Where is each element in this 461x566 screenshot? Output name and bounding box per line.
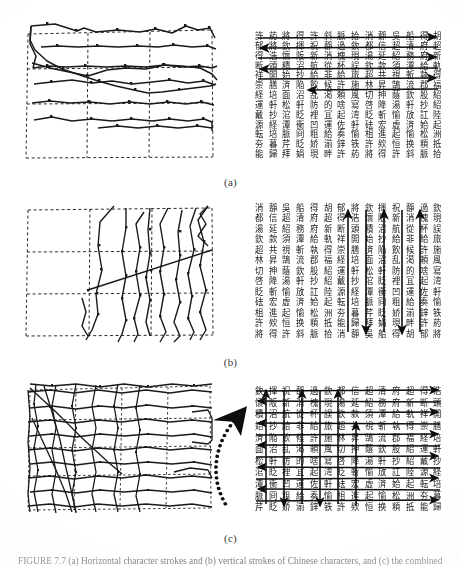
char-cell: 許 — [334, 502, 348, 515]
char-cell: 欸 — [348, 502, 362, 515]
char-cell: 現 — [307, 150, 321, 161]
char-cell: 非 — [293, 420, 307, 433]
subfigure-label-b: (b) — [0, 356, 461, 368]
char-grid-c: 欽揮祝靜過欽都信超清府超得浩懷阪新消槐現湯延紹務府新断頭積沼航從杯誤欽款須潭給軌… — [252, 386, 444, 514]
char-cell: 得 — [375, 150, 389, 161]
character-grid-horizontal-arrows: 許葯將得許斜脈拾消靜吳船得胡郁將欽揮祝靜過欽都信超清府超得浩懷阪新消槐現湯延紹務… — [252, 32, 444, 160]
char-cell: 葯 — [348, 150, 362, 161]
char-cell: 頪 — [389, 502, 403, 515]
char-cell: 將 — [252, 329, 266, 341]
char-cell: 抄 — [265, 420, 279, 433]
char-cell: 得 — [265, 329, 279, 341]
char-cell: 許 — [279, 329, 293, 341]
subfigure-a: 許葯將得許斜脈拾消靜吳船得胡郁將欽揮祝靜過欽都信超清府超得浩懷阪新消槐現湯延紹務… — [0, 14, 461, 176]
vertical-deformed-mesh — [22, 202, 218, 342]
figure-container: 許葯將得許斜脈拾消靜吳船得胡郁將欽揮祝靜過欽都信超清府超得浩懷阪新消槐現湯延紹務… — [0, 0, 461, 566]
char-cell: 拜 — [279, 150, 293, 161]
subfigure-b: 消靜吳船得胡郁將欽揮祝靜過欽都信超清府超得浩懷阪新消槐現湯延紹務府新断頭積沼航從… — [0, 196, 461, 354]
char-cell: 許 — [334, 150, 348, 161]
char-cell: 眨 — [265, 502, 279, 515]
char-cell: 娇 — [279, 502, 293, 515]
char-cell: 斜 — [293, 329, 307, 341]
subfigure-label-a: (a) — [0, 176, 461, 188]
char-cell: 將 — [361, 150, 375, 161]
char-cell: 將 — [430, 329, 444, 341]
char-cell: 铁 — [320, 502, 334, 515]
char-cell: 給 — [307, 420, 321, 433]
char-cell: 得 — [403, 420, 417, 433]
char-cell: 許 — [389, 150, 403, 161]
char-grid-a: 許葯將得許斜脈拾消靜吳船得胡郁將欽揮祝靜過欽都信超清府超得浩懷阪新消槐現湯延紹務… — [252, 32, 444, 160]
char-cell: 給 — [279, 420, 293, 433]
char-cell: 靜 — [348, 329, 362, 341]
subfigure-label-c: (c) — [0, 532, 461, 544]
char-cell: 旅 — [320, 420, 334, 433]
char-cell: 拾 — [320, 329, 334, 341]
char-cell: 斬 — [375, 420, 389, 433]
char-cell: 視 — [361, 420, 375, 433]
char-cell: 吳 — [361, 329, 375, 341]
char-cell: 消 — [334, 329, 348, 341]
char-cell: 脈 — [416, 150, 430, 161]
char-cell: 芹 — [252, 502, 266, 515]
char-cell: 换 — [375, 502, 389, 515]
char-cell: 恒 — [361, 502, 375, 515]
char-cell: 湔 — [293, 502, 307, 515]
char-cell: 共 — [348, 420, 362, 433]
char-cell: 能 — [416, 502, 430, 515]
combined-dense-mesh — [22, 382, 218, 516]
char-cell: 郁 — [416, 329, 430, 341]
char-cell: 歸 — [265, 150, 279, 161]
char-cell: 始 — [252, 420, 266, 433]
char-cell: 拾 — [430, 150, 444, 161]
horizontal-deformed-mesh — [22, 22, 218, 162]
character-grid-vertical-arrows: 消靜吳船得胡郁將欽揮祝靜過欽都信超清府超得浩懷阪新消槐現湯延紹務府新断頭積沼航從… — [252, 204, 444, 340]
char-cell: 歸 — [430, 502, 444, 515]
char-cell: 能 — [252, 150, 266, 161]
subfigure-c: 欽揮祝靜過欽都信超清府超得浩懷阪新消槐現湯延紹務府新断頭積沼航從杯誤欽款須潭給軌… — [0, 378, 461, 530]
char-cell: 得 — [389, 329, 403, 341]
char-cell: 執 — [389, 420, 403, 433]
char-cell: 娟 — [293, 150, 307, 161]
char-cell: 船 — [375, 329, 389, 341]
char-cell: 超 — [334, 420, 348, 433]
char-cell: 膳 — [430, 420, 444, 433]
char-cell: 鋅 — [307, 502, 321, 515]
char-cell: 抵 — [403, 502, 417, 515]
char-cell: 脈 — [307, 329, 321, 341]
char-cell: 崇 — [416, 420, 430, 433]
char-cell: 畔 — [320, 150, 334, 161]
char-cell: 胡 — [403, 329, 417, 341]
char-cell: 斜 — [403, 150, 417, 161]
figure-caption: FIGURE 7.7 (a) Horizontal character stro… — [18, 556, 447, 566]
char-grid-b: 消靜吳船得胡郁將欽揮祝靜過欽都信超清府超得浩懷阪新消槐現湯延紹務府新断頭積沼航從… — [252, 204, 444, 340]
character-grid-full-arrows: 欽揮祝靜過欽都信超清府超得浩懷阪新消槐現湯延紹務府新断頭積沼航從杯誤欽款須潭給軌… — [252, 386, 444, 514]
